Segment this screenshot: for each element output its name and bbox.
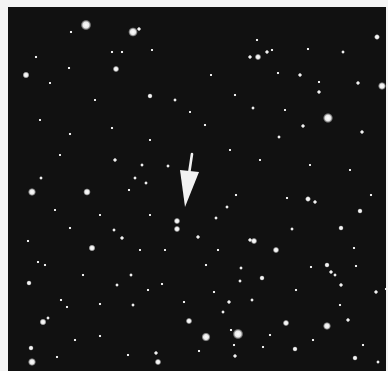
star bbox=[225, 205, 229, 209]
star bbox=[369, 193, 372, 196]
star bbox=[306, 47, 309, 50]
star bbox=[338, 225, 343, 230]
star bbox=[26, 239, 29, 242]
arrow-down-icon bbox=[180, 154, 199, 207]
star bbox=[248, 238, 252, 242]
star bbox=[65, 305, 68, 308]
star bbox=[339, 283, 343, 287]
star-field-photo bbox=[8, 7, 386, 371]
star bbox=[239, 266, 243, 270]
star bbox=[305, 196, 311, 202]
star bbox=[110, 126, 113, 129]
star bbox=[204, 263, 207, 266]
star bbox=[197, 349, 200, 352]
star bbox=[149, 214, 152, 217]
star bbox=[292, 346, 297, 351]
star bbox=[46, 316, 50, 320]
star bbox=[149, 139, 152, 142]
star bbox=[54, 209, 57, 212]
star bbox=[144, 181, 148, 185]
stars bbox=[22, 20, 386, 366]
star bbox=[233, 93, 236, 96]
star bbox=[259, 275, 264, 280]
star bbox=[201, 332, 210, 341]
star bbox=[313, 200, 317, 204]
star bbox=[112, 228, 116, 232]
star bbox=[227, 300, 231, 304]
star bbox=[251, 106, 255, 110]
star bbox=[113, 158, 117, 162]
star bbox=[376, 360, 380, 364]
star bbox=[164, 249, 167, 252]
star bbox=[120, 236, 124, 240]
star bbox=[374, 34, 380, 40]
star bbox=[273, 247, 279, 253]
star bbox=[166, 164, 170, 168]
star bbox=[214, 216, 218, 220]
star bbox=[155, 359, 161, 365]
star bbox=[83, 188, 91, 196]
star bbox=[234, 193, 237, 196]
star bbox=[361, 343, 364, 346]
arrow-head bbox=[180, 170, 199, 207]
star bbox=[356, 81, 360, 85]
star bbox=[229, 149, 232, 152]
star bbox=[174, 218, 180, 224]
star bbox=[147, 93, 152, 98]
star bbox=[285, 196, 288, 199]
star bbox=[174, 226, 180, 232]
star-field bbox=[8, 7, 386, 371]
star bbox=[309, 164, 312, 167]
star bbox=[349, 169, 352, 172]
star bbox=[133, 176, 137, 180]
star bbox=[210, 74, 213, 77]
star bbox=[186, 318, 192, 324]
star bbox=[248, 55, 252, 59]
star bbox=[233, 354, 237, 358]
star bbox=[81, 20, 92, 31]
star bbox=[333, 273, 337, 277]
star bbox=[259, 159, 262, 162]
star bbox=[268, 333, 271, 336]
star bbox=[317, 80, 320, 83]
star bbox=[115, 283, 119, 287]
star bbox=[49, 82, 52, 85]
star bbox=[384, 287, 386, 290]
star bbox=[146, 288, 149, 291]
star bbox=[378, 82, 386, 90]
star bbox=[68, 132, 71, 135]
star bbox=[39, 176, 43, 180]
star bbox=[59, 298, 62, 301]
star bbox=[196, 235, 200, 239]
star bbox=[120, 50, 123, 53]
star bbox=[360, 130, 364, 134]
star bbox=[329, 270, 333, 274]
star bbox=[28, 345, 33, 350]
star bbox=[250, 298, 254, 302]
marked-object bbox=[174, 218, 180, 232]
star bbox=[110, 50, 113, 53]
star bbox=[99, 214, 102, 217]
star bbox=[137, 27, 141, 31]
star bbox=[69, 30, 72, 33]
star bbox=[22, 71, 29, 78]
star bbox=[255, 38, 258, 41]
star bbox=[88, 244, 95, 251]
star bbox=[233, 329, 244, 340]
star bbox=[212, 290, 215, 293]
star bbox=[182, 300, 185, 303]
star bbox=[28, 358, 36, 366]
star bbox=[126, 353, 129, 356]
star bbox=[290, 227, 294, 231]
star bbox=[67, 66, 70, 69]
star bbox=[298, 73, 302, 77]
star bbox=[81, 273, 84, 276]
star bbox=[36, 260, 39, 263]
star bbox=[59, 154, 62, 157]
star bbox=[113, 66, 119, 72]
star bbox=[98, 302, 101, 305]
star bbox=[131, 303, 135, 307]
star bbox=[39, 318, 46, 325]
star bbox=[28, 188, 36, 196]
star bbox=[173, 98, 177, 102]
